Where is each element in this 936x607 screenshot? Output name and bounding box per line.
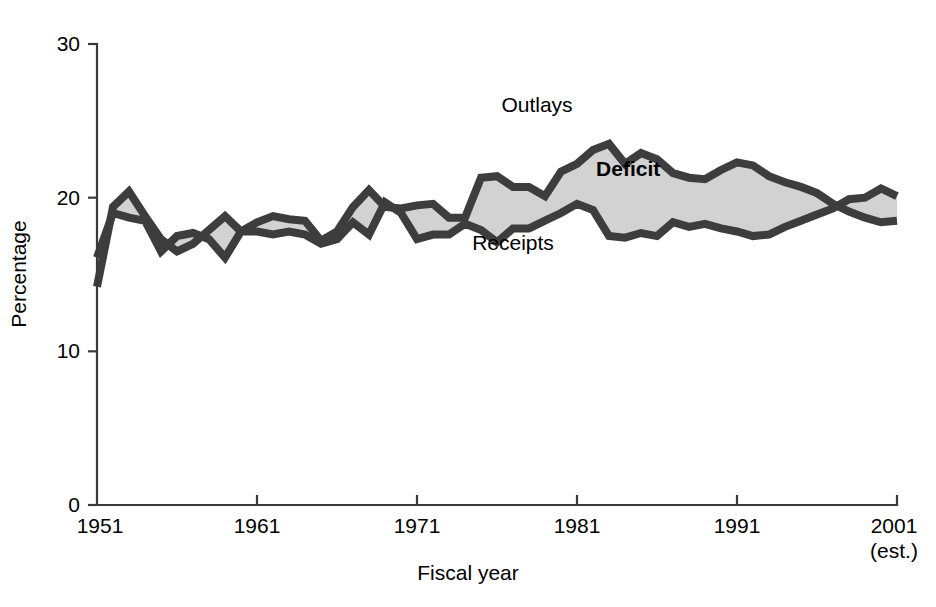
y-tick-label: 10 — [57, 339, 80, 362]
x-tick-label: 2001 — [871, 514, 918, 537]
chart-figure: 0102030 195119611971198119912001(est.) P… — [0, 0, 936, 607]
x-tick-label: 1981 — [554, 514, 601, 537]
y-tick-label: 0 — [68, 493, 80, 516]
x-tick-label: 1961 — [234, 514, 281, 537]
x-tick-label: 1991 — [714, 514, 761, 537]
deficit-label: Deficit — [596, 157, 660, 180]
deficit-band-group — [97, 144, 897, 287]
y-tick-label: 30 — [57, 32, 80, 55]
x-tick-label: 1971 — [394, 514, 441, 537]
x-axis-title: Fiscal year — [417, 561, 519, 584]
axes-group: 0102030 195119611971198119912001(est.) — [57, 32, 918, 562]
x-tick-label: 1951 — [77, 514, 124, 537]
x-tick-sublabel: (est.) — [870, 539, 918, 562]
y-axis-title: Percentage — [7, 220, 30, 327]
deficit-band — [97, 144, 897, 287]
y-tick-label: 20 — [57, 186, 80, 209]
outlays-label: Outlays — [501, 93, 572, 116]
receipts-label: Receipts — [472, 231, 554, 254]
chart-canvas: 0102030 195119611971198119912001(est.) P… — [0, 0, 936, 607]
y-axis-ticks: 0102030 — [57, 32, 97, 516]
